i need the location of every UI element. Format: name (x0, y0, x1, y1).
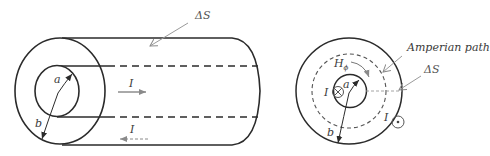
label-b: b (35, 117, 42, 130)
delta-s-pointer-xs (399, 76, 421, 90)
label-a-xs: a (343, 78, 350, 91)
label-current-outer: I (383, 111, 389, 124)
label-b-xs: b (327, 126, 334, 139)
label-current-return: I (129, 123, 135, 136)
delta-s-pointer (150, 23, 188, 46)
label-amperian-path: Amperian path (406, 41, 490, 54)
coax-3d-view: a b I I ΔS (15, 9, 260, 145)
label-a: a (54, 73, 61, 86)
label-current-inner: I (323, 86, 329, 99)
label-delta-s-left: ΔS (194, 9, 211, 22)
coax-cross-section: I a b Hϕ Amperian path ΔS I (296, 38, 490, 144)
h-field-subscript: ϕ (344, 64, 349, 72)
h-field-symbol: H (333, 57, 344, 70)
out-of-page-icon (392, 116, 404, 128)
coax-diagram: a b I I ΔS I a (0, 0, 490, 156)
label-current-forward: I (128, 77, 134, 90)
label-delta-s-right: ΔS (423, 63, 440, 76)
